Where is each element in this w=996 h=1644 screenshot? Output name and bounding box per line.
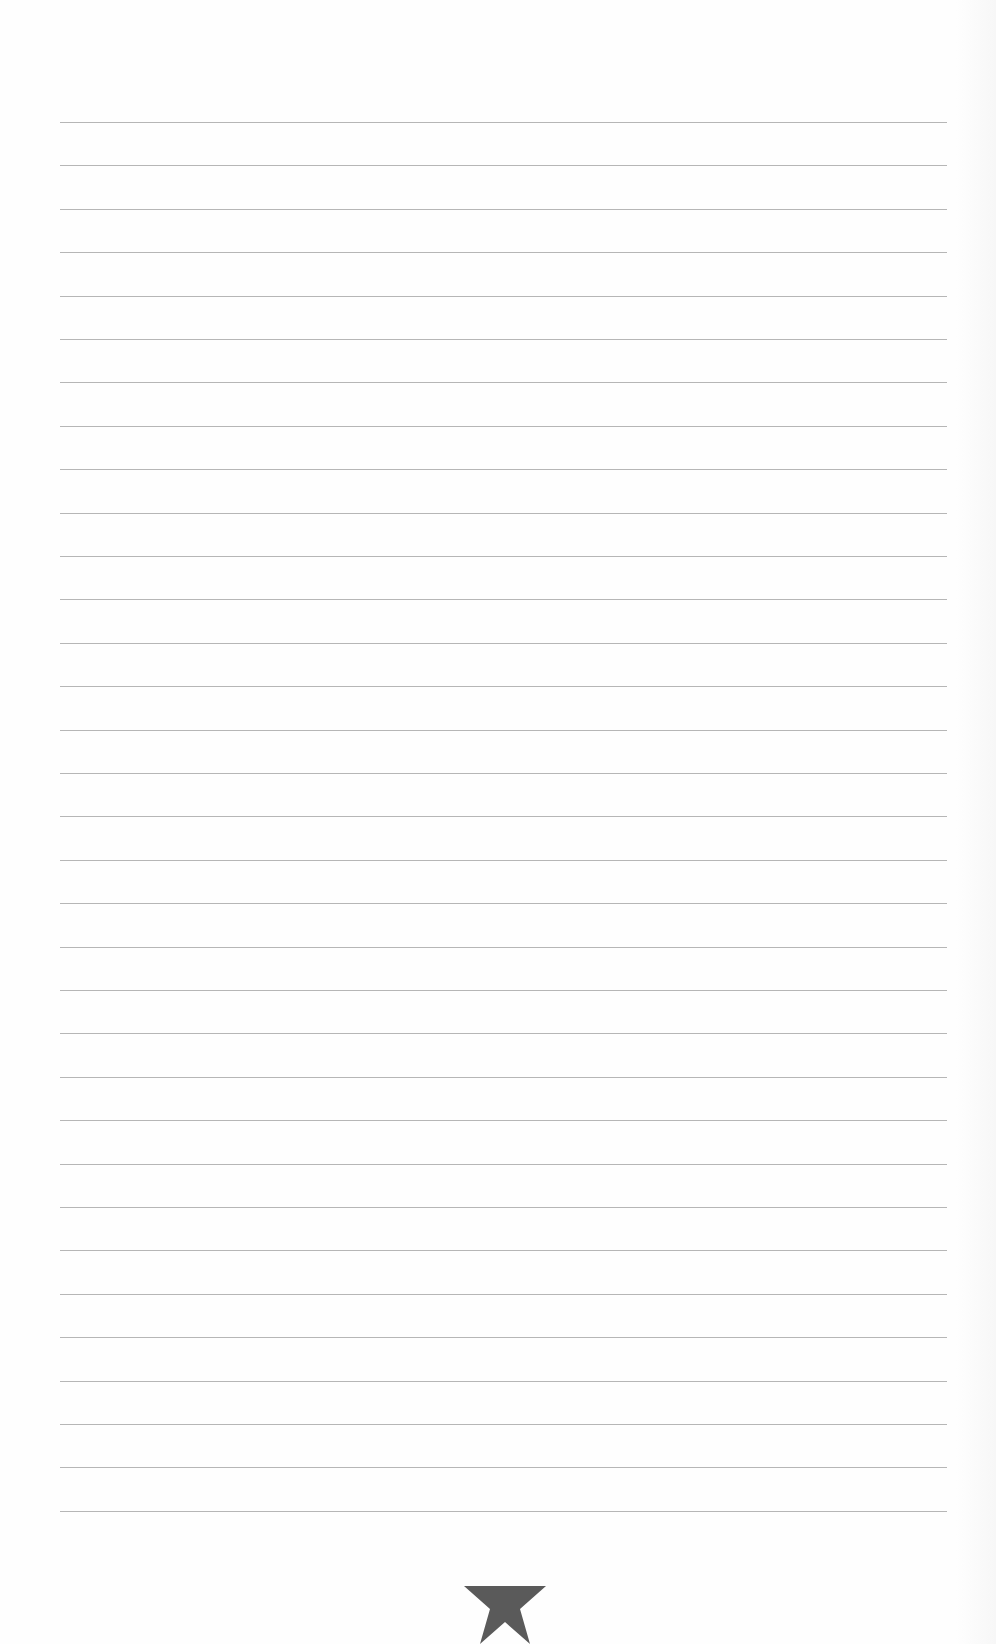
ruled-line [60, 1207, 947, 1208]
ruled-line [60, 1467, 947, 1468]
ruled-line [60, 1164, 947, 1165]
ruled-line [60, 730, 947, 731]
ruled-line [60, 1250, 947, 1251]
ruled-line [60, 947, 947, 948]
ruled-line [60, 1077, 947, 1078]
ruled-line [60, 1424, 947, 1425]
ruled-line [60, 209, 947, 210]
ruled-line [60, 599, 947, 600]
ruled-line [60, 643, 947, 644]
ruled-line [60, 339, 947, 340]
ruled-line [60, 903, 947, 904]
ruled-line [60, 426, 947, 427]
ruled-line [60, 382, 947, 383]
ruled-line [60, 165, 947, 166]
ruled-line [60, 686, 947, 687]
ruled-line [60, 990, 947, 991]
ruled-line [60, 1381, 947, 1382]
ruled-line [60, 513, 947, 514]
ruled-line [60, 773, 947, 774]
notepad-page [0, 0, 996, 1644]
ruled-line [60, 1511, 947, 1512]
star-icon [462, 1584, 548, 1644]
ruled-line [60, 469, 947, 470]
ruled-line [60, 860, 947, 861]
ruled-line [60, 1294, 947, 1295]
ruled-line [60, 1120, 947, 1121]
ruled-line [60, 1337, 947, 1338]
ruled-line [60, 252, 947, 253]
ruled-line [60, 122, 947, 123]
ruled-line [60, 1033, 947, 1034]
ruled-line [60, 816, 947, 817]
ruled-line [60, 556, 947, 557]
page-edge-shadow [956, 0, 996, 1644]
ruled-line [60, 296, 947, 297]
